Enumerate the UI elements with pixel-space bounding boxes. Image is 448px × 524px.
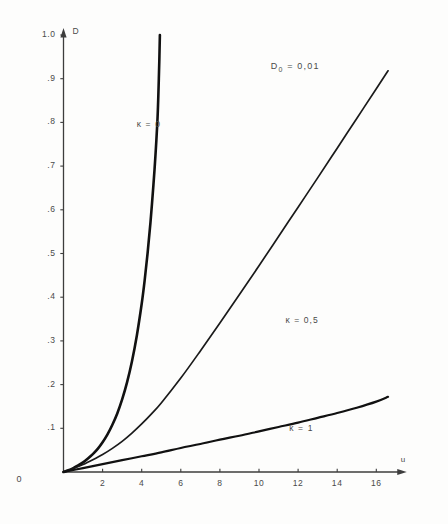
curve-kappa-0 [64,35,160,472]
x-axis-tick-label: 4 [130,478,154,488]
x-axis-tick-label: 10 [247,478,271,488]
curve-label-kappa-05: κ = 0,5 [285,315,318,325]
x-axis-tick-label: 2 [91,478,115,488]
y-axis-tick-label: .5 [26,248,56,258]
x-axis-title: u [401,455,406,464]
y-axis-tick-label: .3 [26,335,56,345]
figure-container: .1.2.3.4.5.6.7.8.91.02468101214160Duκ = … [0,0,448,524]
y-axis-tick-label: .9 [26,73,56,83]
y-axis-tick-label: .4 [26,291,56,301]
origin-label: 0 [17,474,23,484]
x-axis-arrowhead [397,469,407,475]
y-axis-tick-label: .7 [26,160,56,170]
y-axis-tick-label: .2 [26,379,56,389]
x-axis-tick-label: 16 [364,478,388,488]
y-axis-title: D [73,26,80,36]
x-axis-tick-label: 14 [325,478,349,488]
curve-label-kappa-0: κ = 0 [137,119,161,129]
parameter-annotation: D0 = 0,01 [271,61,320,73]
curve-kappa-1 [64,397,389,472]
x-axis-tick-label: 12 [286,478,310,488]
y-axis-tick-label: .6 [26,204,56,214]
curve-label-kappa-1: κ = 1 [289,423,313,433]
y-axis-tick-label: .8 [26,116,56,126]
chart-plot-area [0,0,448,524]
y-axis-tick-label: 1.0 [26,29,56,39]
y-axis-arrowhead [60,28,66,38]
x-axis-tick-label: 8 [208,478,232,488]
x-axis-tick-label: 6 [169,478,193,488]
y-axis-tick-label: .1 [26,422,56,432]
